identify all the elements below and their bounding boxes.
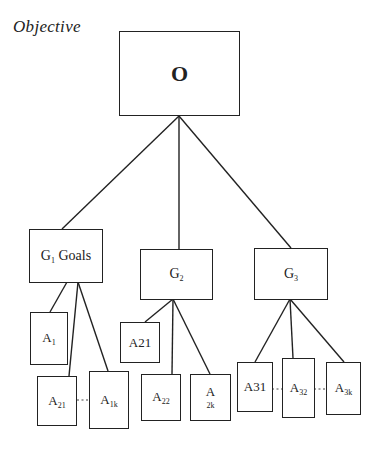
action-label: A21 [129, 335, 151, 351]
action-label: A2k [206, 385, 215, 410]
goal-label: G3 [284, 266, 298, 283]
action-box-a31: A31 [237, 362, 273, 412]
action-label: A21 [48, 393, 65, 410]
action-box-a22: A22 [141, 374, 181, 421]
action-box-a21-g1: A21 [37, 376, 77, 426]
action-label: A1k [100, 392, 117, 409]
action-box-a21-g2: A21 [120, 322, 160, 363]
objective-box: O [119, 31, 240, 116]
action-box-a2k: A2k [190, 374, 231, 421]
action-label: A32 [290, 380, 307, 397]
action-label: A31 [244, 379, 266, 395]
goal-label: G2 [169, 266, 183, 283]
goal-label: G1 Goals [41, 248, 91, 265]
action-box-a3k: A3k [326, 362, 361, 415]
goal-box-g2: G2 [140, 249, 213, 300]
diagram-title: Objective [13, 17, 81, 37]
action-label: A3k [335, 380, 352, 397]
objective-label: O [171, 61, 188, 87]
action-box-a32: A32 [282, 358, 315, 418]
action-label: A1 [42, 330, 55, 347]
goal-box-g1: G1 Goals [29, 229, 103, 283]
goal-box-g3: G3 [254, 248, 328, 300]
action-label: A22 [152, 389, 169, 406]
action-box-a1k: A1k [89, 371, 129, 429]
action-box-a1: A1 [30, 312, 68, 365]
